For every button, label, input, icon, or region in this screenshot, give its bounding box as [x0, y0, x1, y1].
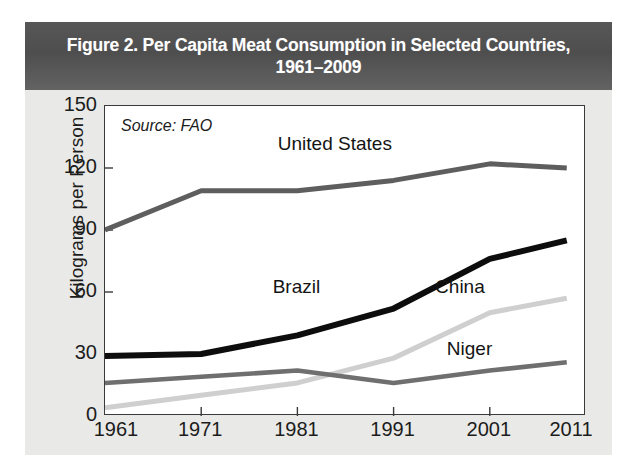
source-note: Source: FAO — [121, 117, 212, 135]
x-tick-1961: 1961 — [94, 418, 139, 441]
y-tick-60: 60 — [51, 279, 97, 302]
x-axis-tick-labels: 196119711981199120012011 — [104, 418, 585, 452]
x-tick-2011: 2011 — [549, 418, 592, 441]
series-lines — [105, 164, 567, 408]
figure-container: Figure 2. Per Capita Meat Consumption in… — [25, 22, 612, 455]
series-label-china: China — [435, 276, 485, 298]
series-line-brazil — [105, 240, 567, 356]
x-tick-2001: 2001 — [467, 418, 512, 441]
y-tick-0: 0 — [51, 403, 97, 426]
y-tick-30: 30 — [51, 341, 97, 364]
x-tick-1991: 1991 — [370, 418, 415, 441]
y-axis-tick-labels: 0306090120150 — [25, 105, 97, 415]
series-label-niger: Niger — [447, 338, 492, 360]
y-tick-90: 90 — [51, 217, 97, 240]
series-line-united-states — [105, 164, 567, 230]
figure-title-bar: Figure 2. Per Capita Meat Consumption in… — [25, 22, 612, 90]
figure-title-line-2: 1961–2009 — [276, 57, 362, 77]
y-tick-150: 150 — [51, 93, 97, 116]
series-label-united-states: United States — [278, 133, 392, 155]
figure-title: Figure 2. Per Capita Meat Consumption in… — [49, 34, 588, 79]
figure-title-line-1: Figure 2. Per Capita Meat Consumption in… — [67, 35, 570, 55]
series-label-brazil: Brazil — [273, 276, 321, 298]
y-tick-120: 120 — [51, 155, 97, 178]
x-tick-1981: 1981 — [274, 418, 319, 441]
x-tick-1971: 1971 — [178, 418, 223, 441]
